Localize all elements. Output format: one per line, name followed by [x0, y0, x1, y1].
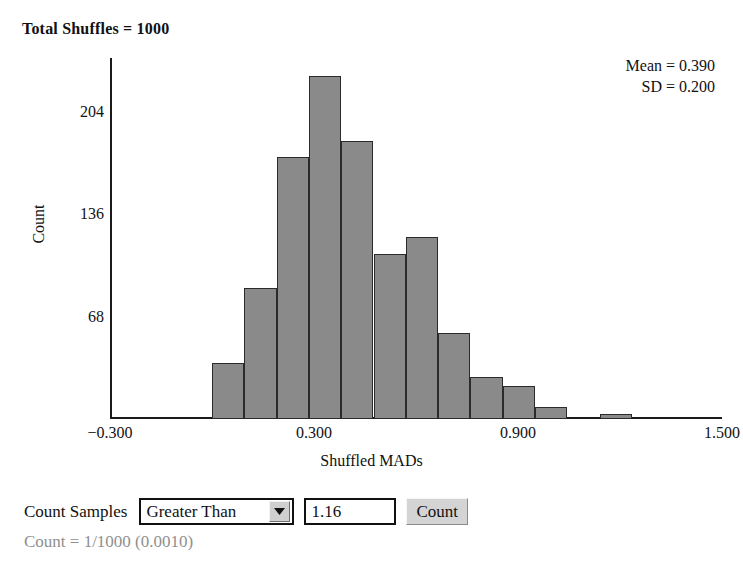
histogram-bar: [438, 333, 470, 419]
histogram-bar: [244, 288, 276, 419]
comparison-select[interactable]: Greater Than: [139, 498, 294, 525]
count-samples-label: Count Samples: [24, 502, 127, 522]
histogram-bar: [406, 237, 438, 419]
x-tick-label: 1.500: [677, 424, 743, 442]
count-result-text: Count = 1/1000 (0.0010): [24, 532, 193, 552]
count-controls: Count Samples Greater Than 1.16 Count: [24, 498, 468, 525]
x-tick-label: 0.300: [269, 424, 359, 442]
histogram-bars: [0, 0, 743, 420]
histogram-app: Total Shuffles = 1000 Mean = 0.390 SD = …: [0, 0, 743, 584]
x-tick-label: 0.900: [473, 424, 563, 442]
chevron-down-icon[interactable]: [269, 501, 290, 522]
histogram-bar: [212, 363, 244, 419]
count-button[interactable]: Count: [406, 498, 468, 525]
histogram-bar: [277, 157, 309, 419]
x-tick-label: −0.300: [65, 424, 155, 442]
x-axis-title: Shuffled MADs: [0, 452, 743, 470]
comparison-select-value: Greater Than: [141, 502, 269, 522]
threshold-input[interactable]: 1.16: [304, 498, 396, 525]
histogram-bar: [470, 377, 502, 419]
threshold-input-value: 1.16: [306, 502, 341, 522]
histogram-bar: [374, 254, 406, 419]
histogram-bar: [341, 141, 373, 419]
histogram-bar: [309, 76, 341, 419]
histogram-bar: [503, 386, 535, 419]
histogram-bar: [600, 414, 632, 419]
histogram-bar: [535, 407, 567, 419]
histogram-plot: Count 68136204 −0.3000.3000.9001.500 Shu…: [0, 0, 743, 470]
